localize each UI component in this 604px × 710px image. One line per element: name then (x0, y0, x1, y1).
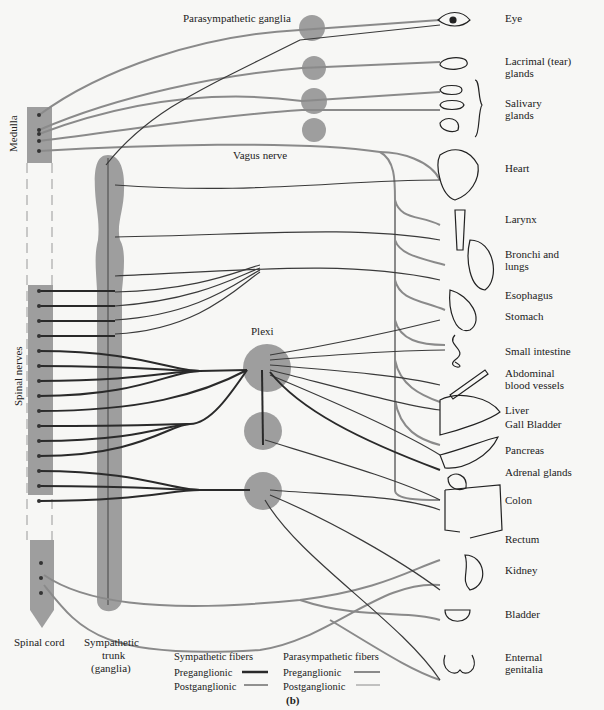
salivary-gland-icon (440, 86, 464, 132)
panel-label: (b) (286, 694, 299, 707)
liver-icon (440, 396, 500, 435)
sympathetic-trunk-label-2: trunk (102, 649, 125, 662)
organ-label-genitalia-2: genitalia (505, 663, 543, 676)
organ-label-salivary-2: glands (505, 109, 534, 122)
organ-label-small-intestine: Small intestine (505, 345, 571, 358)
organ-label-esophagus: Esophagus (505, 289, 553, 302)
legend-symp-pre-label: Preganglionic (174, 665, 253, 679)
organ-label-stomach: Stomach (505, 310, 544, 323)
organ-label-eye: Eye (505, 12, 522, 25)
legend-para-pre-label: Preganglionic (283, 665, 379, 679)
lacrimal-gland-icon (440, 58, 467, 70)
organ-label-larynx: Larynx (505, 213, 537, 226)
kidney-icon (465, 555, 483, 590)
spinal-nerves-block (28, 285, 53, 495)
blood-vessel-icon (450, 370, 488, 399)
legend-sympathetic-title: Sympathetic fibers (174, 650, 253, 663)
small-intestine-icon (453, 335, 460, 367)
larynx-icon (455, 210, 465, 250)
plexi-label: Plexi (251, 325, 274, 338)
legend-symp-post-label: Postganglionic (174, 679, 253, 693)
organ-label-gall-bladder: Gall Bladder (505, 418, 562, 431)
sympathetic-trunk (95, 155, 124, 611)
genitalia-icon (444, 655, 474, 673)
stomach-icon (450, 290, 476, 331)
organ-label-pancreas: Pancreas (505, 444, 544, 457)
adrenal-icon (448, 474, 466, 489)
pancreas-icon (440, 437, 498, 468)
organ-label-abdominal-2: blood vessels (505, 379, 564, 392)
legend-sympathetic: Sympathetic fibers Preganglionic Postgan… (174, 650, 253, 693)
sympathetic-trunk-label-1: Sympathetic (84, 636, 139, 649)
organ-label-liver: Liver (505, 404, 529, 417)
medulla-label: Medulla (7, 115, 20, 152)
organ-label-kidney: Kidney (505, 564, 537, 577)
organ-label-colon: Colon (505, 494, 532, 507)
sympathetic-trunk-label-3: (ganglia) (91, 662, 131, 675)
bladder-icon (445, 610, 470, 621)
spinal-cord-label: Spinal cord (14, 636, 64, 649)
heart-icon (438, 150, 478, 200)
lungs-icon (468, 240, 493, 290)
organ-label-bronchi-2: lungs (505, 260, 529, 273)
legend-parasympathetic: Parasympathetic fibers Preganglionic Pos… (283, 650, 379, 693)
colon-icon (445, 485, 502, 538)
plexi-ganglia (243, 344, 291, 510)
organ-label-heart: Heart (505, 162, 529, 175)
organ-label-lacrimal-2: glands (505, 67, 534, 80)
parasympathetic-ganglia (299, 15, 327, 142)
bracket (475, 80, 482, 137)
vagus-nerve-label: Vagus nerve (233, 149, 287, 162)
spinal-cord-block (30, 540, 54, 628)
legend-parasympathetic-title: Parasympathetic fibers (283, 650, 379, 663)
organ-label-bladder: Bladder (505, 608, 540, 621)
legend-para-post-label: Postganglionic (283, 679, 379, 693)
spinal-nerves-label: Spinal nerves (12, 346, 25, 406)
organ-label-rectum: Rectum (505, 533, 539, 546)
organ-sketches (438, 13, 502, 674)
parasympathetic-ganglia-label: Parasympathetic ganglia (183, 12, 291, 25)
organ-label-adrenal: Adrenal glands (505, 466, 572, 479)
